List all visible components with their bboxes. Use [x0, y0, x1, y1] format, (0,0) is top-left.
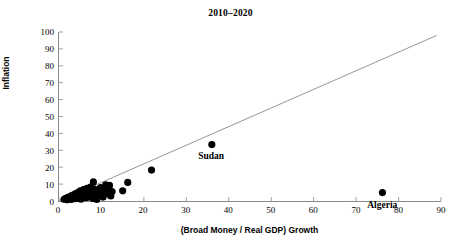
- x-tick-label: 90: [426, 205, 456, 215]
- point-annotation-label: Sudan: [198, 151, 224, 161]
- x-axis-title: (Broad Money / Real GDP) Growth: [58, 225, 441, 235]
- y-tick-label: 50: [28, 113, 54, 122]
- point-annotation-label: Algeria: [367, 200, 397, 210]
- y-tick-label: 20: [28, 164, 54, 173]
- y-tick-label: 10: [28, 181, 54, 190]
- x-tick-label: 0: [43, 205, 73, 215]
- data-point: [208, 141, 215, 148]
- plot-area: [58, 32, 441, 202]
- x-tick-label: 40: [213, 205, 243, 215]
- x-tick-label: 10: [86, 205, 116, 215]
- plot-canvas: [59, 32, 441, 201]
- data-point: [119, 187, 126, 194]
- data-point: [90, 178, 97, 185]
- y-axis-tick-labels: 0102030405060708090100: [26, 32, 54, 202]
- data-point: [106, 182, 113, 189]
- y-axis-title: Inflation: [1, 28, 11, 118]
- y-tick-label: 60: [28, 96, 54, 105]
- data-point: [108, 188, 115, 195]
- y-tick-label: 30: [28, 147, 54, 156]
- data-point: [148, 166, 155, 173]
- y-tick-label: 70: [28, 79, 54, 88]
- x-tick-label: 30: [171, 205, 201, 215]
- data-point: [379, 189, 386, 196]
- x-tick-label: 50: [256, 205, 286, 215]
- y-tick-label: 80: [28, 62, 54, 71]
- data-point: [124, 179, 131, 186]
- chart-title: 2010–2020: [0, 8, 461, 18]
- x-tick-label: 60: [298, 205, 328, 215]
- y-tick-label: 40: [28, 130, 54, 139]
- trend-line: [60, 35, 436, 200]
- y-tick-label: 100: [28, 28, 54, 37]
- x-tick-label: 20: [128, 205, 158, 215]
- y-tick-label: 90: [28, 45, 54, 54]
- scatter-chart-figure: 2010–2020 Inflation 01020304050607080901…: [0, 0, 461, 250]
